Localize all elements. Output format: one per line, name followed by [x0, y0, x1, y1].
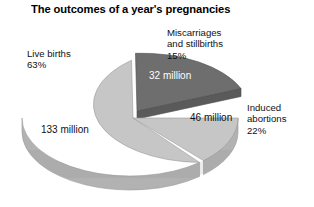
- value-live-births: 133 million: [41, 124, 89, 135]
- value-induced-abortions: 46 million: [190, 112, 232, 123]
- label-live-births: Live births 63%: [27, 48, 71, 71]
- label-miscarriages-percent: 15%: [167, 50, 223, 61]
- label-miscarriages-line1: Miscarriages: [167, 27, 223, 38]
- label-induced-line1: Induced: [247, 102, 286, 113]
- value-miscarriages: 32 million: [149, 70, 191, 81]
- label-live-births-percent: 63%: [27, 59, 71, 70]
- label-live-births-name: Live births: [27, 48, 71, 59]
- label-induced-abortions: Induced abortions 22%: [247, 102, 286, 136]
- label-induced-percent: 22%: [247, 125, 286, 136]
- pie-chart-figure: The outcomes of a year's pregnancies: [0, 0, 314, 207]
- label-miscarriages-stillbirths: Miscarriages and stillbirths 15%: [167, 27, 223, 61]
- label-miscarriages-line2: and stillbirths: [167, 38, 223, 49]
- label-induced-line2: abortions: [247, 113, 286, 124]
